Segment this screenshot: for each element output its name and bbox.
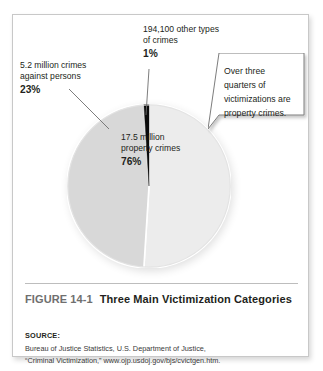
source-prefix: SOURCE: — [25, 331, 60, 340]
label-crimes-against-persons: 5.2 million crimes against persons 23% — [20, 60, 128, 96]
chart-area: 5.2 million crimes against persons 23% 1… — [13, 15, 310, 283]
figure-title-text: Three Main Victimization Categories — [100, 293, 292, 305]
figure-title: FIGURE 14-1Three Main Victimization Cate… — [25, 292, 300, 307]
figure-screenshot: 5.2 million crimes against persons 23% 1… — [0, 0, 323, 371]
label-persons-percent: 23% — [20, 83, 128, 96]
label-persons-line1: 5.2 million crimes — [20, 60, 128, 71]
callout-line4: property crimes. — [224, 106, 296, 120]
callout-line2: quarters of — [224, 78, 296, 92]
label-other-line2: of crimes — [143, 35, 255, 46]
pie-slices — [67, 104, 231, 268]
figure-source: SOURCE: Bureau of Justice Statistics, U.… — [25, 330, 303, 368]
label-property-line2: property crimes — [121, 143, 221, 154]
label-property-crimes: 17.5 million property crimes 76% — [121, 132, 221, 168]
callout-line1: Over three — [224, 64, 296, 78]
callout-bubble: Over three quarters of victimizations ar… — [208, 53, 308, 145]
figure-card: 5.2 million crimes against persons 23% 1… — [12, 14, 309, 357]
figure-caption: FIGURE 14-1Three Main Victimization Cate… — [13, 283, 310, 356]
source-text-1: Bureau of Justice Statistics, U.S. Depar… — [25, 343, 303, 356]
label-other-line1: 194,100 other types — [143, 24, 255, 35]
source-line-1: SOURCE: Bureau of Justice Statistics, U.… — [25, 330, 303, 355]
label-persons-line2: against persons — [20, 71, 128, 82]
figure-number: FIGURE 14-1 — [25, 293, 93, 305]
label-property-percent: 76% — [121, 155, 221, 168]
callout-line3: victimizations are — [224, 92, 296, 106]
callout-text: Over three quarters of victimizations ar… — [224, 64, 296, 120]
label-property-line1: 17.5 million — [121, 132, 221, 143]
pie-slice-crimes-against-persons — [67, 104, 149, 268]
source-line-2: “Criminal Victimization,” www.ojp.usdoj.… — [25, 355, 303, 368]
pie-chart — [67, 104, 231, 268]
caption-divider — [25, 283, 298, 284]
